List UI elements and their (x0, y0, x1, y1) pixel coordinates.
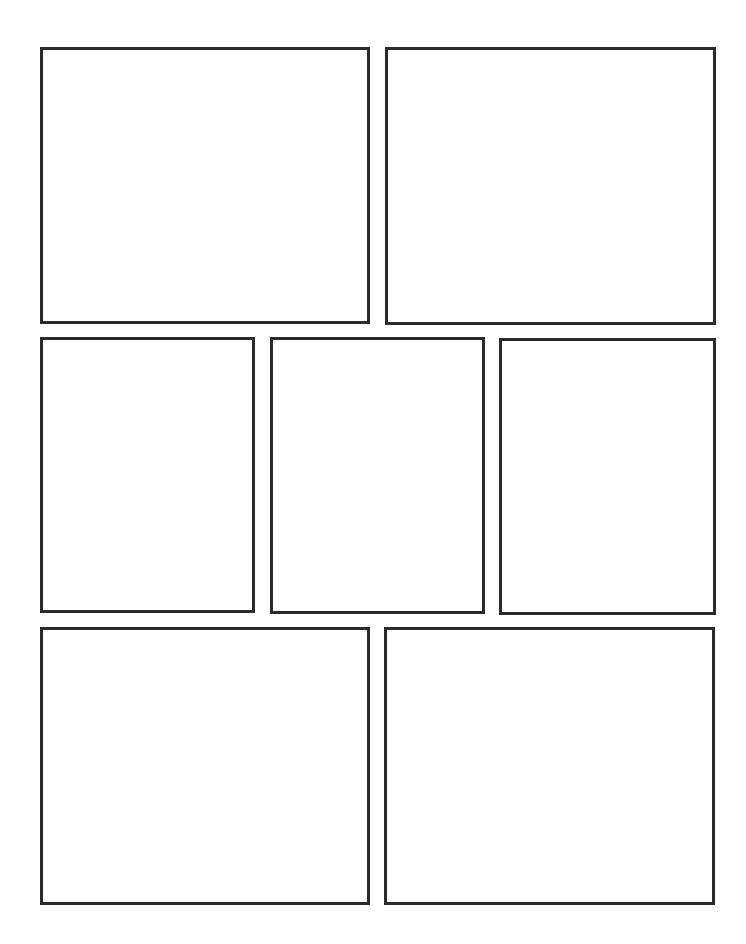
panel-4 (270, 337, 485, 614)
panel-7 (384, 627, 715, 905)
panel-6 (40, 627, 370, 905)
panel-2 (385, 47, 716, 325)
panel-5 (499, 338, 716, 615)
panel-1 (40, 47, 370, 324)
panel-3 (40, 337, 255, 613)
